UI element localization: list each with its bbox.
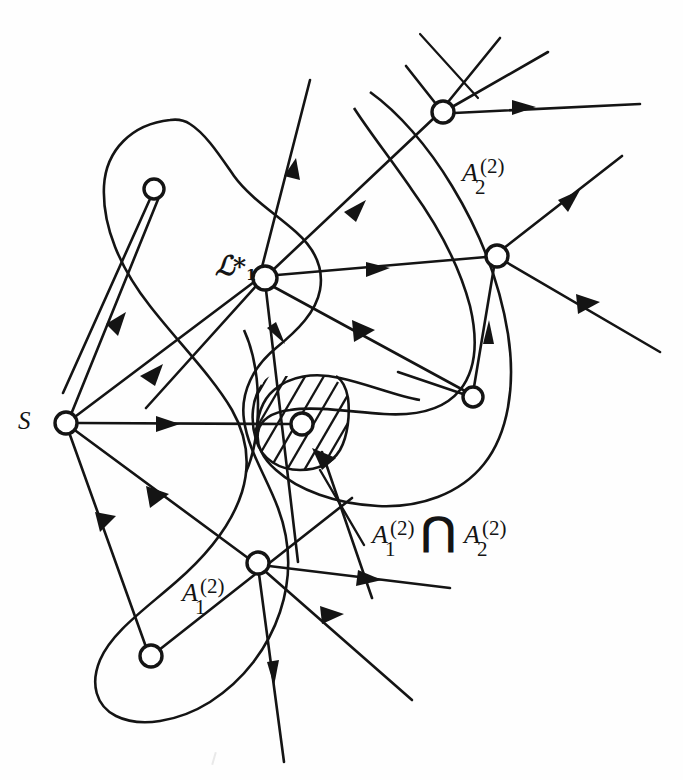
setlabel-cap-a2-sub: 2 xyxy=(477,539,488,560)
setlabel-cap-a2: A(2)2 xyxy=(464,522,504,548)
arrowhead-s-bottomleft xyxy=(95,512,116,532)
arrowhead-l1-right xyxy=(366,262,390,277)
arrowhead-bot-down xyxy=(267,660,279,686)
label-region-a1: A(2)1 xyxy=(182,580,222,606)
node-hatched[interactable] xyxy=(291,413,313,435)
label-script-l1: ℒ*1 xyxy=(215,252,256,283)
edge-cross-top xyxy=(420,34,478,98)
node-l1[interactable] xyxy=(253,266,277,290)
arrowhead-s-topleft xyxy=(106,312,126,336)
node-top-left[interactable] xyxy=(144,179,164,199)
caption-pointer xyxy=(320,470,364,545)
node-bottom[interactable] xyxy=(247,552,269,574)
edge-l1-to-top xyxy=(274,118,434,269)
edge-s-to-hatch xyxy=(78,423,291,424)
script-l-subscript: 1 xyxy=(246,266,255,284)
setlabel-a2-sub: 2 xyxy=(475,177,486,198)
intersection-symbol: ⋂ xyxy=(421,516,455,547)
edge-top-upleft xyxy=(406,66,436,104)
arrowhead-l1-top xyxy=(344,200,366,222)
node-bottom-left[interactable] xyxy=(140,645,162,667)
edge-inner-to-right xyxy=(474,267,494,387)
node-inner[interactable] xyxy=(463,387,483,407)
arrowhead-top-right xyxy=(512,100,536,115)
arrowhead-s-l1 xyxy=(140,364,163,386)
arrowhead-bot-downright xyxy=(320,606,344,624)
node-right[interactable] xyxy=(486,245,508,267)
arrowhead-right-outup xyxy=(558,190,580,212)
edge-s-to-bottomleft xyxy=(70,435,146,647)
setlabel-cap-a1: A(2)1 xyxy=(372,522,412,548)
setlabel-a2: A(2)2 xyxy=(462,160,502,186)
arrowhead-s-hatch xyxy=(156,416,180,432)
label-source-s: S xyxy=(18,408,31,433)
setlabel-a1-sub: 1 xyxy=(195,597,206,618)
label-intersection-caption: A(2)1 ⋂ A(2)2 xyxy=(372,522,505,553)
diagram-canvas xyxy=(0,0,683,780)
edge-l1-downleft xyxy=(146,286,256,408)
figure-root: S ℒ*1 A(2)2 A(2)1 A(2)1 ⋂ A(2)2 xyxy=(0,0,683,780)
script-l-star: * xyxy=(233,252,245,281)
region-a1-boundary xyxy=(95,120,321,723)
setlabel-a1: A(2)1 xyxy=(182,580,222,606)
edge-topleft-downleft xyxy=(63,199,150,393)
node-s[interactable] xyxy=(55,412,77,434)
node-top[interactable] xyxy=(432,101,454,123)
script-l-glyph: ℒ xyxy=(215,250,233,281)
edge-top-right-out xyxy=(454,104,640,113)
edge-inner-left xyxy=(398,372,463,394)
edge-bot-downright xyxy=(266,572,412,700)
intersection-caption-row: A(2)1 ⋂ A(2)2 xyxy=(372,522,505,553)
setlabel-cap-a1-sub: 1 xyxy=(385,539,396,560)
label-region-a2: A(2)2 xyxy=(462,160,502,186)
